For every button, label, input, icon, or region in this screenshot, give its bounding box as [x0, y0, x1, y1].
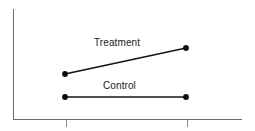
series-treatment	[62, 45, 189, 77]
control-series-label: Control	[101, 81, 138, 91]
treatment-point-pre	[62, 71, 68, 77]
difference-in-differences-chart: Treatment Control	[0, 0, 255, 131]
control-point-pre	[62, 94, 68, 100]
treatment-series-label: Treatment	[92, 38, 142, 48]
control-point-post	[183, 94, 189, 100]
axes-group	[13, 9, 242, 120]
treatment-line	[65, 48, 186, 74]
plot-canvas	[0, 0, 255, 131]
series-control	[62, 94, 189, 100]
treatment-point-post	[183, 45, 189, 51]
x-axis-ticks	[67, 120, 188, 127]
